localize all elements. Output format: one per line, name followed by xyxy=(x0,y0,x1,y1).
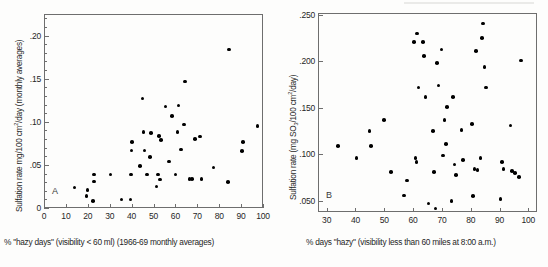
x-tick-label: 40 xyxy=(127,211,136,221)
x-tick-label: 80 xyxy=(466,215,475,225)
y-tick-minor xyxy=(44,105,47,106)
data-point xyxy=(450,199,454,203)
data-point xyxy=(73,186,77,190)
data-point xyxy=(454,173,458,177)
y-axis-title-b-pre: Sulfation rate (mg SO xyxy=(288,125,298,200)
data-point xyxy=(155,185,159,189)
data-point xyxy=(190,177,194,181)
y-tick-label: .200 xyxy=(292,56,315,66)
y-axis-title-b-sub: 3 xyxy=(293,123,299,126)
x-axis-title-b: % days "hazy" (visibility less than 60 m… xyxy=(306,237,496,247)
data-point xyxy=(85,194,89,198)
data-points-b xyxy=(319,14,536,211)
data-point xyxy=(424,95,428,99)
x-tick xyxy=(132,204,133,208)
data-point xyxy=(157,134,161,138)
x-tick xyxy=(197,204,198,208)
data-point xyxy=(130,140,134,144)
y-axis-title-b-mid: /100 cm xyxy=(288,95,298,123)
y-tick-major xyxy=(318,61,323,62)
data-point xyxy=(389,170,393,174)
data-point xyxy=(432,170,436,174)
data-point xyxy=(519,59,523,63)
x-tick-label: 100 xyxy=(256,211,270,221)
data-point xyxy=(143,149,147,153)
y-tick-major xyxy=(318,201,323,202)
y-axis-title-b-sup: 2 xyxy=(287,92,293,95)
data-point xyxy=(427,202,431,206)
data-point xyxy=(445,105,449,109)
data-point xyxy=(434,207,438,211)
data-point xyxy=(212,166,216,170)
x-tick-label: 20 xyxy=(83,211,92,221)
data-point xyxy=(513,171,517,175)
y-tick-minor xyxy=(44,113,47,114)
y-tick-minor xyxy=(44,191,47,192)
data-point xyxy=(86,188,90,192)
data-point xyxy=(437,84,441,88)
data-point xyxy=(431,129,435,133)
data-point xyxy=(481,22,485,26)
data-point xyxy=(92,173,96,177)
data-point xyxy=(227,48,231,52)
x-tick xyxy=(500,208,501,212)
x-tick xyxy=(327,208,328,212)
data-point xyxy=(130,149,134,153)
data-point xyxy=(369,144,373,148)
y-tick-minor xyxy=(44,87,47,88)
x-tick-label: 10 xyxy=(61,211,70,221)
data-point xyxy=(149,131,153,135)
y-tick-major xyxy=(318,108,323,109)
x-tick-label: 30 xyxy=(322,215,331,225)
data-point xyxy=(167,160,171,164)
data-point xyxy=(502,167,506,171)
plot-frame-a xyxy=(44,14,263,208)
data-point xyxy=(443,118,447,122)
panel-letter-b: B xyxy=(326,190,332,200)
y-axis-title-a-sup: 2 xyxy=(13,123,19,126)
data-point xyxy=(129,198,133,202)
data-point xyxy=(415,32,419,36)
data-point xyxy=(417,86,421,90)
panel-letter-a: A xyxy=(52,186,58,196)
y-tick-minor xyxy=(44,130,47,131)
data-point xyxy=(461,158,465,162)
y-tick-minor xyxy=(44,156,47,157)
y-tick-minor xyxy=(44,18,47,19)
data-point xyxy=(382,118,386,122)
data-point xyxy=(199,135,203,139)
y-axis-title-a-post: /day (monthly averages) xyxy=(14,40,24,123)
data-point xyxy=(179,148,183,152)
x-tick xyxy=(355,208,356,212)
data-point xyxy=(484,86,488,90)
data-point xyxy=(240,149,244,153)
data-point xyxy=(226,180,230,184)
data-point xyxy=(460,128,464,132)
data-point xyxy=(476,168,480,172)
x-tick-label: 0 xyxy=(42,211,47,221)
data-point xyxy=(109,173,113,177)
x-tick-label: 60 xyxy=(171,211,180,221)
y-tick-minor xyxy=(44,53,47,54)
data-point xyxy=(164,105,168,109)
y-tick-minor xyxy=(44,61,47,62)
x-tick xyxy=(66,204,67,208)
y-axis-title-b: Sulfation rate (mg SO3/100 cm2/day) xyxy=(287,75,299,200)
data-point xyxy=(402,194,406,198)
x-tick-label: 30 xyxy=(105,211,114,221)
y-tick-minor xyxy=(44,182,47,183)
data-point xyxy=(517,175,521,179)
data-point xyxy=(138,164,142,168)
scatter-figure: 01020304050607080901000.05.10.15.20 A % … xyxy=(0,0,548,267)
x-tick xyxy=(88,204,89,208)
y-axis-title-b-post: /day) xyxy=(288,75,298,92)
y-tick-minor xyxy=(44,96,47,97)
x-tick-label: 90 xyxy=(495,215,504,225)
data-point xyxy=(193,137,197,141)
x-tick xyxy=(219,204,220,208)
data-point xyxy=(182,123,186,127)
data-point xyxy=(422,54,426,58)
x-tick xyxy=(175,204,176,208)
x-axis-title-a: % "hazy days" (visibility < 60 ml) (1966… xyxy=(4,237,214,247)
x-axis-title-b-text: % days "hazy" (visibility less than 60 m… xyxy=(306,237,496,247)
